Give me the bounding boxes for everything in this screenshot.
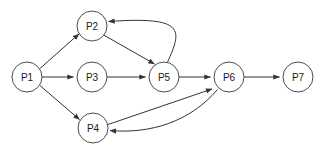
node-p1[interactable]: P1 bbox=[12, 62, 42, 92]
node-p6-label: P6 bbox=[223, 72, 236, 83]
node-p4-label: P4 bbox=[87, 123, 100, 134]
node-p4[interactable]: P4 bbox=[78, 113, 108, 143]
edge-p6-p4 bbox=[110, 90, 218, 132]
edge-p2-p5 bbox=[104, 35, 155, 64]
node-p1-label: P1 bbox=[21, 72, 34, 83]
node-p5-label: P5 bbox=[158, 72, 171, 83]
edge-p4-p6 bbox=[108, 89, 212, 125]
node-p5[interactable]: P5 bbox=[149, 62, 179, 92]
node-p3-label: P3 bbox=[86, 72, 99, 83]
node-p6[interactable]: P6 bbox=[214, 62, 244, 92]
node-p7-label: P7 bbox=[292, 72, 305, 83]
node-p2-label: P2 bbox=[86, 21, 99, 32]
node-p2[interactable]: P2 bbox=[77, 11, 107, 41]
directed-graph-diagram: P1 P2 P3 P4 P5 P6 P7 bbox=[0, 0, 328, 154]
edge-p5-p2 bbox=[109, 20, 176, 62]
node-p7[interactable]: P7 bbox=[283, 62, 313, 92]
edge-p1-p4 bbox=[40, 85, 80, 119]
edge-p1-p2 bbox=[40, 34, 79, 69]
node-p3[interactable]: P3 bbox=[77, 62, 107, 92]
